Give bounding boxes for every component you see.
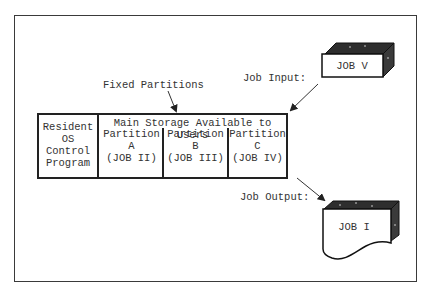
fixed-partitions-label: Fixed Partitions	[103, 79, 204, 91]
job-input-arrow	[291, 84, 318, 110]
resident-os-cell: Resident OS Control Program	[39, 115, 99, 177]
partition-c-cell: Partition C (JOB IV)	[229, 128, 286, 177]
partition-b-cell: Partition B (JOB III)	[164, 128, 229, 177]
partition-a-cell: Partition A (JOB II)	[101, 128, 164, 177]
memory-partition-table: Resident OS Control Program Main Storage…	[37, 113, 288, 179]
job-input-label: Job Input:	[243, 72, 306, 84]
output-job-printout-icon: JOB I	[323, 201, 399, 259]
output-job-label: JOB I	[338, 221, 370, 233]
job-output-label: Job Output:	[240, 191, 309, 203]
input-job-label: JOB V	[336, 60, 368, 72]
fixed-partitions-arrow	[168, 91, 176, 111]
input-job-deck-icon: JOB V	[322, 43, 394, 77]
